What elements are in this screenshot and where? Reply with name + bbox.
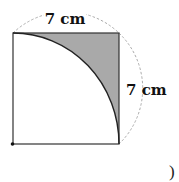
shaded-region — [13, 33, 119, 144]
geometry-figure: 7 cm 7 cm ) — [0, 0, 179, 182]
top-side-label: 7 cm — [45, 10, 86, 28]
center-dot — [11, 142, 15, 146]
right-side-label: 7 cm — [126, 81, 167, 99]
trailing-paren: ) — [169, 162, 175, 181]
dashed-arc — [13, 12, 143, 144]
